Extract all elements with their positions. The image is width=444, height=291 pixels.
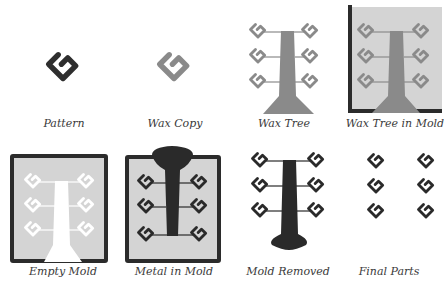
step-label-wax-tree: Wax Tree — [258, 117, 310, 130]
part-glyph-icon — [419, 205, 433, 218]
metal-tree — [271, 160, 307, 250]
wax-copy-glyph-icon — [160, 55, 187, 79]
part-glyph-icon — [419, 155, 433, 168]
wax-copy-figure — [160, 55, 187, 79]
step-label-wax-copy: Wax Copy — [148, 117, 203, 130]
metal-in-mold-figure — [127, 146, 219, 261]
pattern-glyph-icon — [49, 55, 76, 79]
step-label-metal-in-mold: Metal in Mold — [135, 265, 213, 278]
wax-sprue — [263, 31, 314, 114]
empty-mold-figure — [12, 156, 106, 262]
step-label-pattern: Pattern — [43, 117, 84, 130]
part-glyph-icon — [369, 180, 383, 193]
part-glyph-icon — [369, 155, 383, 168]
step-label-empty-mold: Empty Mold — [29, 265, 97, 278]
step-label-final-parts: Final Parts — [359, 265, 420, 278]
step-label-wax-tree-in-mold: Wax Tree in Mold — [346, 117, 444, 130]
part-glyph-icon — [369, 205, 383, 218]
mold-removed-figure — [253, 154, 323, 251]
final-parts-figure — [369, 155, 433, 218]
step-label-mold-removed: Mold Removed — [246, 265, 330, 278]
part-glyph-icon — [419, 180, 433, 193]
wax-tree-in-mold-figure — [348, 5, 442, 113]
wax-tree-figure — [251, 25, 317, 115]
pattern-figure — [49, 55, 76, 79]
